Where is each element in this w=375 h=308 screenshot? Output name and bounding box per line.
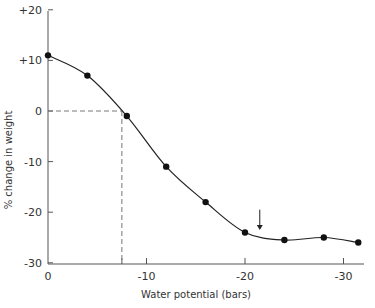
fitted-curve	[48, 55, 358, 242]
y-tick-label: 0	[35, 105, 42, 118]
data-point	[84, 72, 90, 78]
x-tick-label: -20	[236, 270, 254, 283]
arrow-down-icon	[257, 210, 263, 230]
y-tick-label: +10	[19, 54, 42, 67]
reference-dashed-lines	[48, 111, 122, 264]
x-tick-label: -10	[138, 270, 156, 283]
data-point	[281, 237, 287, 243]
data-points	[45, 52, 362, 246]
data-point	[355, 239, 361, 245]
x-tick-label: 0	[45, 270, 52, 283]
y-tick-label: +20	[19, 4, 42, 17]
y-axis-title: % change in weight	[3, 111, 14, 210]
x-axis-title: Water potential (bars)	[141, 289, 251, 300]
data-point	[242, 229, 248, 235]
data-point	[45, 52, 51, 58]
y-tick-label: -20	[24, 206, 42, 219]
y-tick-label: -30	[24, 257, 42, 270]
data-point	[124, 113, 130, 119]
y-tick-label: -10	[24, 156, 42, 169]
x-tick-label: -30	[335, 270, 353, 283]
data-point	[202, 199, 208, 205]
chart: +20+100-10-20-30 0-10-20-30 % change in …	[0, 0, 375, 308]
y-axis: +20+100-10-20-30	[19, 4, 53, 270]
data-point	[163, 163, 169, 169]
x-axis: 0-10-20-30	[45, 258, 365, 283]
data-point	[321, 234, 327, 240]
